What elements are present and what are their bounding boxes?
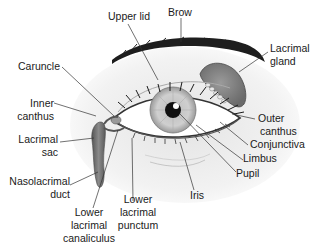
label-inner-canthus-line2: canthus [10, 110, 54, 122]
label-outer-canthus-line1: Outer [258, 112, 284, 124]
label-lower-lacrimal-canaliculus-line2: lacrimal [62, 219, 116, 231]
label-pupil: Pupil [236, 167, 259, 179]
label-lacrimal-gland-line2: gland [270, 55, 296, 67]
label-brow: Brow [168, 6, 192, 18]
label-limbus: Limbus [243, 152, 277, 164]
label-outer-canthus-line2: canthus [260, 125, 297, 137]
label-lower-lacrimal-punctum-line2: lacrimal [116, 206, 160, 218]
label-lower-lacrimal-punctum-line1: Lower [116, 193, 160, 205]
label-conjunctiva: Conjunctiva [250, 138, 305, 150]
label-lower-lacrimal-punctum-line3: punctum [114, 219, 162, 231]
label-nasolacrimal-duct-line2: duct [2, 188, 70, 200]
label-upper-lid: Upper lid [108, 10, 150, 22]
pupil-shape [165, 102, 181, 118]
lacrimal-sac-shape [92, 122, 106, 187]
label-lacrimal-gland-line1: Lacrimal [270, 42, 310, 54]
label-iris: Iris [190, 189, 204, 201]
label-lacrimal-sac-line1: Lacrimal [10, 133, 58, 145]
label-lacrimal-sac-line2: sac [10, 146, 58, 158]
label-nasolacrimal-duct-line1: Nasolacrimal [2, 175, 70, 187]
label-caruncle: Caruncle [18, 60, 60, 72]
label-inner-canthus-line1: Inner [16, 97, 54, 109]
eye-anatomy-diagram: Upper lid Brow Lacrimal gland Caruncle I… [0, 0, 331, 249]
label-lower-lacrimal-canaliculus-line1: Lower [62, 206, 116, 218]
pupil-highlight [173, 103, 179, 109]
label-lower-lacrimal-canaliculus-line3: canaliculus [60, 232, 118, 244]
